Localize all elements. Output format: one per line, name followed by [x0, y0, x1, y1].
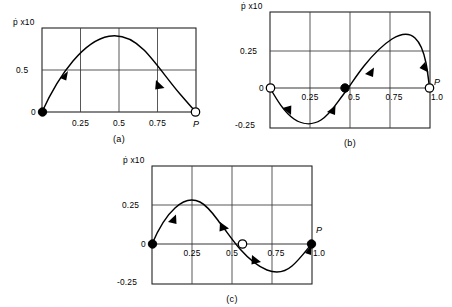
panel-c-xlabel: P: [316, 225, 322, 235]
panel-b: ṗ x10 0.25 0 -0.25 0.25 0.5 0.75 P 1.0 …: [222, 0, 452, 150]
equilibrium-marker-filled: [307, 240, 315, 248]
panel-b-xtick-0: 0.25: [301, 92, 318, 102]
panel-b-xlabel: P: [434, 77, 440, 87]
panel-b-xend-value: 1.0: [431, 92, 443, 102]
panel-a-ytick-0: 0.5: [16, 65, 28, 75]
panel-b-xtick-1: 0.5: [348, 92, 360, 102]
panel-b-xtick-2: 0.75: [385, 92, 402, 102]
equilibrium-marker-open: [266, 84, 274, 92]
panel-c-xtick-0: 0.25: [183, 248, 200, 258]
panel-b-flow-arrows: [283, 62, 429, 115]
panel-c-xtick-1: 0.5: [226, 248, 238, 258]
panel-a-flow-arrows: [60, 71, 165, 90]
panel-c-grid: [152, 166, 312, 284]
panel-b-caption: (b): [344, 138, 356, 148]
equilibrium-marker-open: [238, 240, 246, 248]
equilibrium-marker-open: [191, 108, 199, 116]
panel-c-ylabel: ṗ x10: [123, 155, 145, 165]
equilibrium-marker-filled: [38, 108, 46, 116]
panel-a: ṗ x10 0.5 0 0.25 0.5 0.75 P (a): [0, 4, 218, 144]
panel-c-ytick-2: -0.25: [117, 277, 137, 287]
equilibrium-marker-filled: [341, 84, 349, 92]
panel-a-ylabel: ṗ x10: [13, 17, 35, 27]
panel-a-caption: (a): [113, 134, 125, 144]
panel-c-ytick-1: 0: [141, 239, 146, 249]
panel-b-ytick-0: 0.25: [240, 46, 257, 56]
panel-a-xtick-2: 0.75: [149, 118, 166, 128]
panel-a-xtick-1: 0.5: [113, 118, 125, 128]
panel-b-ytick-1: 0: [259, 83, 264, 93]
equilibrium-marker-open: [425, 84, 433, 92]
panel-b-ytick-2: -0.25: [235, 120, 255, 130]
panel-b-ylabel: ṗ x10: [241, 1, 263, 11]
panel-c-xend-value: 1.0: [313, 248, 325, 258]
panel-c: ṗ x10 0.25 0 -0.25 0.25 0.5 0.75 P 1.0 …: [100, 152, 345, 307]
panel-c-caption: (c): [226, 294, 237, 304]
panel-a-xtick-0: 0.25: [72, 118, 89, 128]
panel-b-grid: [270, 12, 430, 128]
figure-root: ṗ x10 0.5 0 0.25 0.5 0.75 P (a): [0, 0, 452, 307]
panel-c-xtick-2: 0.75: [267, 248, 284, 258]
panel-a-xlabel: P: [193, 119, 199, 129]
equilibrium-marker-filled: [148, 240, 156, 248]
panel-c-ytick-0: 0.25: [122, 200, 139, 210]
panel-a-ytick-1: 0: [31, 107, 36, 117]
